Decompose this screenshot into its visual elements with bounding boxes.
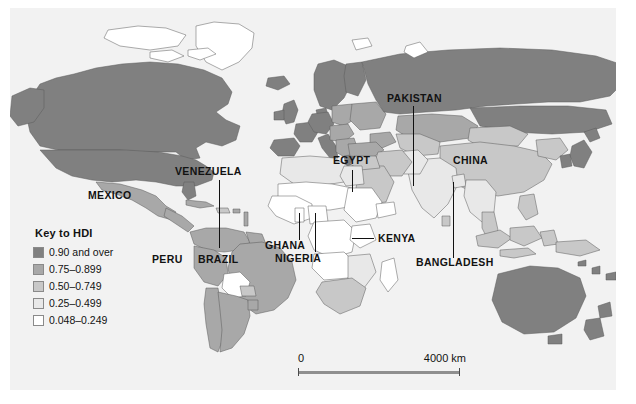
philippines: [518, 194, 538, 220]
country-label-ghana: GHANA: [265, 240, 305, 251]
scale-bar-tick-right: [459, 368, 460, 376]
legend-title: Key to HDI: [35, 228, 113, 239]
leader-line-egypt: [352, 170, 353, 192]
kenya-tanzania: [350, 224, 376, 248]
scale-bar-labels: 0 4000 km: [298, 352, 460, 366]
country-label-pakistan: PAKISTAN: [387, 93, 442, 104]
legend-swatch-3: [33, 298, 44, 309]
legend-swatch-1: [33, 264, 44, 275]
map-geometry: [0, 0, 636, 404]
iberia: [270, 138, 300, 156]
leader-line-bangladesh: [453, 182, 454, 258]
world-hdi-map: MEXICO VENEZUELA PERU BRAZIL GHANA NIGER…: [0, 0, 636, 404]
new-zealand-north: [598, 302, 612, 318]
south-africa: [316, 278, 366, 314]
country-label-venezuela: VENEZUELA: [175, 166, 242, 177]
scale-bar-zero-label: 0: [298, 352, 304, 364]
legend-label-1: 0.75–0.899: [49, 264, 102, 275]
mexico: [96, 182, 176, 220]
horn-of-africa: [376, 202, 396, 218]
ireland: [274, 110, 284, 120]
borneo: [510, 226, 542, 246]
cuba: [186, 200, 214, 208]
indonesia-java: [500, 248, 536, 258]
country-label-nigeria: NIGERIA: [275, 253, 321, 264]
svalbard: [352, 38, 372, 50]
indonesia-sumatra: [476, 230, 512, 248]
scale-bar-max-label: 4000 km: [424, 352, 466, 364]
country-label-china: CHINA: [453, 155, 488, 166]
legend-item-0: 0.90 and over: [33, 244, 113, 260]
legend-item-3: 0.25–0.499: [33, 295, 113, 311]
canada-arctic-islands: [104, 26, 186, 50]
argentina: [218, 292, 250, 352]
legend-item-2: 0.50–0.749: [33, 278, 113, 294]
bangladesh: [452, 174, 466, 188]
leader-line-venezuela: [219, 180, 220, 248]
legend-label-3: 0.25–0.499: [49, 298, 102, 309]
legend-item-1: 0.75–0.899: [33, 261, 113, 277]
country-label-brazil: BRAZIL: [198, 254, 239, 265]
china: [440, 142, 552, 196]
leader-line-nigeria: [315, 213, 316, 252]
legend-label-2: 0.50–0.749: [49, 281, 102, 292]
lesser-antilles: [244, 212, 248, 226]
country-label-peru: PERU: [152, 254, 183, 265]
australia: [492, 266, 586, 334]
scale-bar-tick-left: [298, 368, 299, 376]
pacific-islet-c: [578, 260, 586, 266]
leader-line-pakistan: [413, 106, 414, 186]
legend: Key to HDI 0.90 and over 0.75–0.899 0.50…: [33, 228, 113, 329]
scale-bar-graphic: [298, 368, 460, 376]
paraguay-strip: [240, 286, 256, 296]
new-zealand-south: [584, 318, 604, 340]
greenland: [196, 22, 254, 70]
scale-bar: 0 4000 km: [298, 352, 460, 376]
madagascar: [380, 258, 398, 292]
tasmania: [548, 334, 562, 344]
legend-item-4: 0.048–0.249: [33, 312, 113, 328]
country-label-egypt: EGYPT: [333, 155, 370, 166]
central-america: [164, 208, 194, 232]
country-label-mexico: MEXICO: [88, 190, 132, 201]
legend-swatch-2: [33, 281, 44, 292]
finland: [344, 62, 366, 96]
usa-florida: [182, 182, 196, 200]
pacific-islet-b: [606, 272, 616, 280]
leader-line-kenya: [352, 238, 374, 239]
legend-swatch-4: [33, 315, 44, 326]
legend-label-0: 0.90 and over: [49, 247, 113, 258]
canada: [26, 62, 240, 160]
puerto-rico: [233, 209, 240, 213]
japan: [570, 140, 592, 168]
russia: [362, 48, 624, 114]
uk: [282, 100, 298, 124]
leader-line-ghana: [299, 213, 300, 240]
legend-swatch-0: [33, 247, 44, 258]
arctic-islet-a: [150, 50, 184, 62]
iceland: [266, 76, 290, 90]
sulawesi: [540, 230, 558, 246]
korea: [560, 154, 572, 168]
country-label-bangladesh: BANGLADESH: [416, 257, 494, 268]
scale-bar-fill: [298, 371, 460, 374]
legend-label-4: 0.048–0.249: [49, 315, 107, 326]
sri-lanka: [442, 216, 450, 226]
pacific-islet-a: [592, 266, 600, 274]
country-label-kenya: KENYA: [378, 233, 416, 244]
uruguay: [248, 300, 258, 310]
new-guinea: [556, 240, 600, 256]
